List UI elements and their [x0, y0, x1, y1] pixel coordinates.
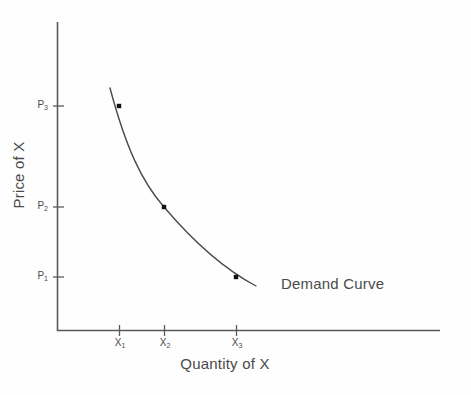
y-axis-title: Price of X	[10, 130, 27, 220]
x-tick-subscript: 2	[166, 342, 170, 349]
data-point-marker	[234, 275, 238, 279]
y-tick-subscript: 1	[44, 275, 48, 282]
data-point-marker	[117, 104, 121, 108]
y-tick-subscript: 3	[44, 104, 48, 111]
chart-canvas	[0, 0, 471, 395]
demand-curve-line	[110, 88, 256, 286]
x-axis-title: Quantity of X	[130, 355, 320, 372]
y-tick-label-p1: P1	[22, 270, 48, 281]
demand-curve-figure: P3 P2 P1 X1 X2 X3 Price of X Quantity of…	[0, 0, 471, 395]
demand-curve-annotation: Demand Curve	[281, 275, 384, 292]
x-tick-label-x3: X3	[224, 337, 250, 348]
y-tick-label-p3: P3	[22, 99, 48, 110]
x-tick-subscript: 1	[121, 342, 125, 349]
data-point-marker	[162, 205, 166, 209]
x-tick-label-x1: X1	[107, 337, 133, 348]
y-tick-subscript: 2	[44, 205, 48, 212]
x-tick-subscript: 3	[238, 342, 242, 349]
x-tick-label-x2: X2	[152, 337, 178, 348]
